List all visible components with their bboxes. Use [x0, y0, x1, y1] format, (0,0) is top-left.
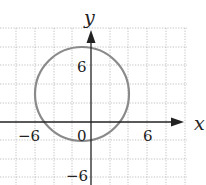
coordinate-plane: y x 6 −6 0 6 −6 [0, 0, 206, 185]
y-tick-neg6: −6 [66, 167, 88, 185]
x-tick-6: 6 [143, 127, 153, 145]
x-tick-0: 0 [77, 127, 87, 145]
y-axis-label: y [83, 6, 95, 28]
y-axis-arrow-icon [87, 30, 96, 43]
x-axis-label: x [194, 112, 205, 134]
grid [0, 28, 187, 185]
y-tick-6: 6 [77, 58, 87, 76]
x-tick-neg6: −6 [18, 127, 40, 145]
y-axis [87, 30, 96, 185]
x-axis [0, 118, 184, 127]
x-axis-arrow-icon [171, 118, 184, 127]
